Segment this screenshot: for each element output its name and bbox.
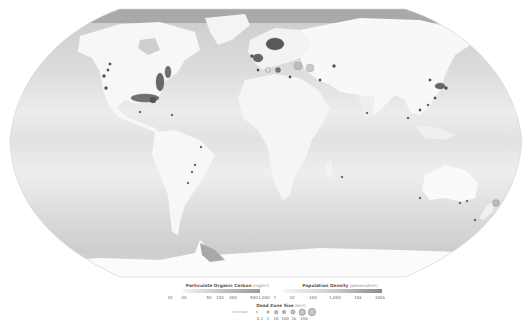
tick: 100k (375, 295, 385, 300)
legend-poc-bar (183, 289, 260, 293)
tick: 1 (274, 295, 277, 300)
tick: 100 (216, 295, 224, 300)
legend-dead-zone: Dead Zone Size (km²) unknown 0.1 1 10 10… (220, 303, 320, 322)
tick: 50 (206, 295, 211, 300)
world-map (0, 0, 530, 280)
tick: 200 (229, 295, 237, 300)
tick: 20 (181, 295, 186, 300)
legend-poc-ticks: 10 20 50 100 200 500 1,000 (160, 295, 270, 301)
tick: 100 (281, 316, 289, 321)
legend-poc-unit: (mg/m³) (253, 283, 269, 288)
tick: 1,000 (329, 295, 340, 300)
tick: 1,000 (258, 295, 269, 300)
legend-population-ticks: 1 10 100 1,000 10k 100k (280, 295, 390, 301)
legend-poc-title: Particulate Organic Carbon (186, 283, 252, 288)
dead-zone-symbol-unknown (256, 311, 259, 314)
dead-zone-symbol-1 (274, 310, 278, 314)
tick: 0.1 (257, 316, 263, 321)
legend-dead-zone-unknown: unknown (232, 310, 248, 314)
tick: 1k (292, 316, 297, 321)
tick: 10k (354, 295, 361, 300)
legend-population: Population Density (persons/km²) 1 10 10… (280, 283, 390, 301)
tick: 100 (309, 295, 317, 300)
tick: 10k (300, 316, 307, 321)
tick: 10 (167, 295, 172, 300)
legend-population-unit: (persons/km²) (350, 283, 378, 288)
dead-zone-symbol-1k (299, 309, 306, 316)
legend-dead-zone-ticks: 0.1 1 10 100 1k 10k (220, 316, 320, 322)
dead-zone-symbol-10k (308, 308, 316, 316)
legend-dead-zone-symbols: unknown (220, 308, 320, 316)
tick: 1 (267, 316, 270, 321)
dead-zone-symbol-0.1 (267, 311, 270, 314)
dead-zone-symbol-100 (291, 310, 296, 315)
tick: 500 (250, 295, 258, 300)
tick: 10 (289, 295, 294, 300)
dead-zone-symbol-10 (282, 310, 286, 314)
legend-population-bar (283, 289, 382, 293)
legend-population-title: Population Density (302, 283, 348, 288)
tick: 10 (273, 316, 278, 321)
legend-poc: Particulate Organic Carbon (mg/m³) 10 20… (160, 283, 270, 301)
